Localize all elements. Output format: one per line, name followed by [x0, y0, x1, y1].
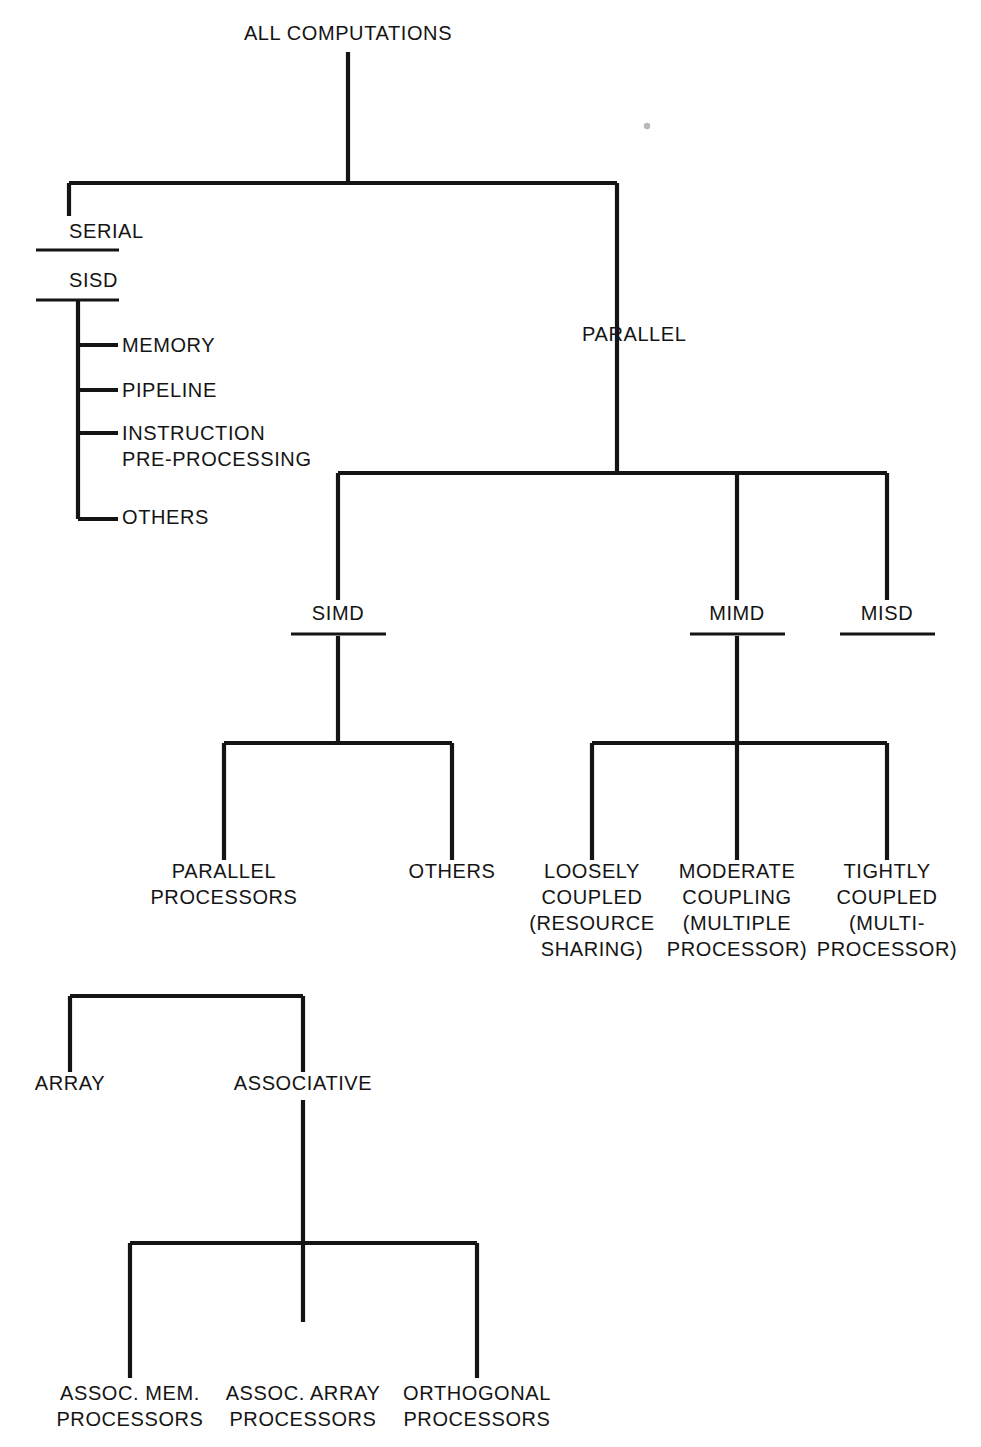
node-label-associative: ASSOCIATIVE — [234, 1072, 373, 1094]
node-line: MODERATE — [679, 860, 796, 882]
node-line: ASSOC. ARRAY — [226, 1382, 381, 1404]
node-label-pipeline: PIPELINE — [122, 379, 217, 401]
node-label-simd-others: OTHERS — [409, 860, 496, 882]
node-line: ARRAY — [35, 1072, 105, 1094]
node-label-memory: MEMORY — [122, 334, 215, 356]
node-line: PROCESSOR) — [817, 938, 957, 960]
node-line: ASSOCIATIVE — [234, 1072, 373, 1094]
node-line: SISD — [69, 269, 118, 291]
node-line: MIMD — [709, 602, 765, 624]
node-label-serial: SERIAL — [69, 220, 144, 242]
node-line: SERIAL — [69, 220, 144, 242]
node-line: MEMORY — [122, 334, 215, 356]
node-line: TIGHTLY — [843, 860, 930, 882]
node-label-sisd: SISD — [69, 269, 118, 291]
node-line: PROCESSOR) — [667, 938, 807, 960]
node-label-mimd: MIMD — [709, 602, 765, 624]
node-line: (MULTIPLE — [683, 912, 791, 934]
node-line: SHARING) — [541, 938, 644, 960]
node-line: LOOSELY — [544, 860, 640, 882]
canvas-background — [0, 0, 981, 1447]
computation-taxonomy-tree: ALL COMPUTATIONSSERIALSISDPARALLELMEMORY… — [0, 0, 981, 1447]
node-line: PROCESSORS — [403, 1408, 550, 1430]
node-line: PARALLEL — [582, 323, 687, 345]
node-line: COUPLING — [682, 886, 791, 908]
node-line: PROCESSORS — [56, 1408, 203, 1430]
node-line: (RESOURCE — [529, 912, 654, 934]
node-line: PROCESSORS — [150, 886, 297, 908]
node-label-parallel: PARALLEL — [582, 323, 687, 345]
node-line: PIPELINE — [122, 379, 217, 401]
node-line: SIMD — [312, 602, 364, 624]
node-label-misd: MISD — [861, 602, 913, 624]
node-line: MISD — [861, 602, 913, 624]
artifact-layer — [644, 123, 650, 129]
node-line: ALL COMPUTATIONS — [244, 22, 452, 44]
node-line: OTHERS — [122, 506, 209, 528]
scan-artifact — [644, 123, 650, 129]
node-label-array: ARRAY — [35, 1072, 105, 1094]
node-line: PROCESSORS — [229, 1408, 376, 1430]
node-line: ORTHOGONAL — [403, 1382, 551, 1404]
diagram-root: ALL COMPUTATIONSSERIALSISDPARALLELMEMORY… — [0, 0, 981, 1447]
node-line: (MULTI- — [849, 912, 925, 934]
node-line: INSTRUCTION — [122, 422, 265, 444]
node-line: OTHERS — [409, 860, 496, 882]
node-label-all: ALL COMPUTATIONS — [244, 22, 452, 44]
node-label-sisd-others: OTHERS — [122, 506, 209, 528]
node-label-simd: SIMD — [312, 602, 364, 624]
node-line: PARALLEL — [172, 860, 277, 882]
node-line: PRE-PROCESSING — [122, 448, 312, 470]
node-line: COUPLED — [542, 886, 643, 908]
node-line: ASSOC. MEM. — [60, 1382, 200, 1404]
node-line: COUPLED — [837, 886, 938, 908]
